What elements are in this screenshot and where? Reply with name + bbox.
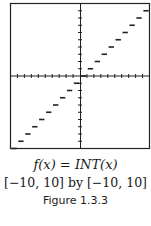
- graph-window: [0, 0, 151, 152]
- window-caption: [−10, 10] by [−10, 10]: [0, 175, 151, 190]
- function-caption: f(x) = INT(x): [0, 157, 151, 172]
- figure-label: Figure 1.3.3: [0, 194, 151, 207]
